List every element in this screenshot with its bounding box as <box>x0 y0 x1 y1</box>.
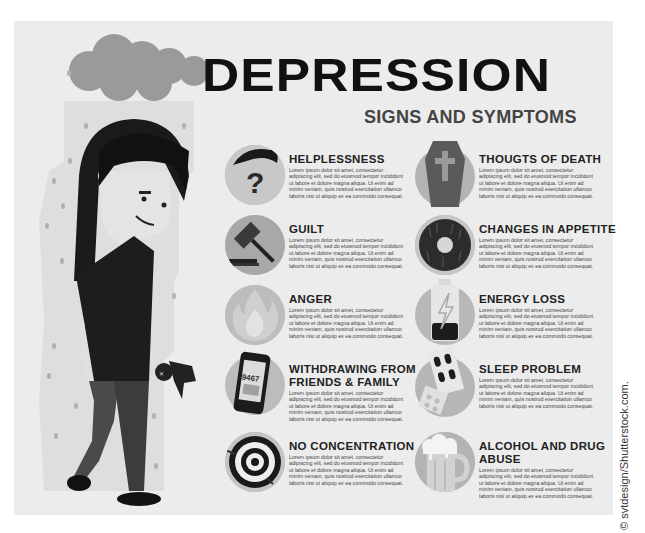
donut-icon <box>415 215 475 275</box>
coffin-icon <box>415 145 475 205</box>
gavel-icon <box>225 215 285 275</box>
symptom-thoughts-of-death: THOUGTS OF DEATH Lorem ipsum dolor sit a… <box>415 145 625 215</box>
symptom-withdrawing: 9467 WITHDRAWING FROM FRIENDS & FAMILY L… <box>225 355 435 425</box>
page-subtitle: SIGNS AND SYMPTOMS <box>364 106 577 128</box>
svg-text:?: ? <box>246 166 264 199</box>
symptom-description: Lorem ipsum dolor sit amet, consectetur … <box>479 377 597 409</box>
symptom-description: Lorem ipsum dolor sit amet, consectetur … <box>289 167 407 199</box>
symptom-alcohol-drug-abuse: ALCOHOL AND DRUG ABUSE Lorem ipsum dolor… <box>415 432 625 502</box>
symptom-title: CHANGES IN APPETITE <box>479 223 629 236</box>
symptom-energy-loss: ENERGY LOSS Lorem ipsum dolor sit amet, … <box>415 285 625 355</box>
phone-icon: 9467 <box>225 355 285 415</box>
symptom-description: Lorem ipsum dolor sit amet, consectetur … <box>479 467 597 499</box>
symptom-title: ENERGY LOSS <box>479 293 629 306</box>
low-battery-icon <box>415 285 475 345</box>
question-face-icon: ? <box>225 145 285 205</box>
symptom-sleep-problem: SLEEP PROBLEM Lorem ipsum dolor sit amet… <box>415 355 625 425</box>
symptom-anger: ANGER Lorem ipsum dolor sit amet, consec… <box>225 285 435 355</box>
symptom-description: Lorem ipsum dolor sit amet, consectetur … <box>289 454 407 486</box>
page-title: DEPRESSION <box>202 52 551 98</box>
cloud-icon <box>69 34 209 101</box>
symptom-title: THOUGTS OF DEATH <box>479 153 629 166</box>
symptom-description: Lorem ipsum dolor sit amet, consectetur … <box>479 307 597 339</box>
symptom-no-concentration: NO CONCENTRATION Lorem ipsum dolor sit a… <box>225 432 435 502</box>
sad-person-illustration: ✕ <box>14 21 224 515</box>
symptom-description: Lorem ipsum dolor sit amet, consectetur … <box>289 307 407 339</box>
beer-mug-icon <box>415 432 475 492</box>
symptom-title: ALCOHOL AND DRUG ABUSE <box>479 440 629 466</box>
symptom-description: Lorem ipsum dolor sit amet, consectetur … <box>479 167 597 199</box>
symptom-helplessness: ? HELPLESSNESS Lorem ipsum dolor sit ame… <box>225 145 435 215</box>
symptom-description: Lorem ipsum dolor sit amet, consectetur … <box>289 237 407 269</box>
symptom-title: SLEEP PROBLEM <box>479 363 629 376</box>
fire-icon <box>225 285 285 345</box>
rain-cloud-person-illustration: ✕ <box>14 21 224 515</box>
svg-text:✕: ✕ <box>159 371 164 377</box>
symptom-changes-in-appetite: CHANGES IN APPETITE Lorem ipsum dolor si… <box>415 215 625 285</box>
symptom-guilt: GUILT Lorem ipsum dolor sit amet, consec… <box>225 215 435 285</box>
symptom-description: Lorem ipsum dolor sit amet, consectetur … <box>479 237 597 269</box>
symptom-description: Lorem ipsum dolor sit amet, consectetur … <box>289 390 407 422</box>
target-icon <box>225 432 285 492</box>
copyright-watermark: © svtdesign/Shutterstock.com. <box>618 381 630 530</box>
pills-icon <box>415 355 475 415</box>
